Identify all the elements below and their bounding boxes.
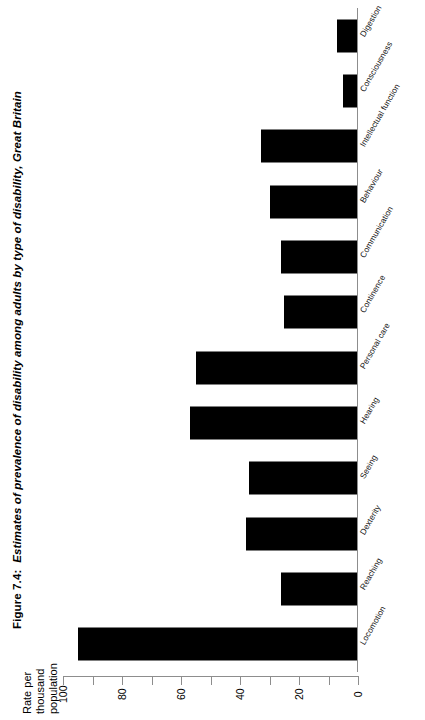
tick-label-20: 20 — [279, 689, 319, 700]
tick-label-60: 60 — [161, 689, 201, 700]
figure-caption: Figure 7.4:Estimates of prevalence of di… — [0, 0, 34, 720]
bar-row: Reaching — [63, 561, 358, 616]
bar-dexterity — [246, 517, 358, 550]
bar-hearing — [190, 406, 358, 439]
category-label-communication: Communication — [358, 205, 394, 259]
tick-label-40: 40 — [220, 689, 260, 700]
category-label-locomotion: Locomotion — [358, 605, 387, 646]
bar-row: Seeing — [63, 451, 358, 506]
major-tick — [181, 676, 182, 685]
value-axis-title-line-1: Rate per — [22, 672, 33, 714]
bar-row: Continence — [63, 285, 358, 340]
bar-communication — [281, 240, 358, 273]
bar-continence — [284, 296, 358, 329]
major-tick — [63, 676, 64, 685]
category-axis-line — [357, 8, 358, 672]
bar-intellectual-function — [261, 130, 358, 163]
bar-row: Communication — [63, 229, 358, 284]
bar-consciousness — [343, 74, 358, 107]
major-tick — [122, 676, 123, 685]
tick-label-80: 80 — [102, 689, 142, 700]
major-tick — [358, 676, 359, 685]
bar-reaching — [281, 572, 358, 605]
minor-tick — [329, 676, 330, 685]
bar-row: Personal care — [63, 340, 358, 395]
category-label-hearing: Hearing — [358, 396, 380, 425]
bar-row: Digestion — [63, 8, 358, 63]
bar-row: Consciousness — [63, 63, 358, 118]
major-tick — [299, 676, 300, 685]
bar-chart-plot-area: DigestionConsciousnessIntellectual funct… — [63, 8, 358, 672]
minor-tick — [211, 676, 212, 685]
figure-caption-text: Figure 7.4:Estimates of prevalence of di… — [11, 91, 23, 629]
category-label-seeing: Seeing — [358, 454, 378, 481]
bar-behaviour — [270, 185, 359, 218]
category-label-digestion: Digestion — [358, 4, 382, 38]
category-label-dexterity: Dexterity — [358, 503, 382, 535]
bar-personal-care — [196, 351, 358, 384]
bar-row: Behaviour — [63, 174, 358, 229]
bar-seeing — [249, 462, 358, 495]
value-axis-title: Rate per thousand population — [22, 640, 68, 718]
tick-label-0: 0 — [338, 689, 378, 700]
category-label-continence: Continence — [358, 274, 386, 315]
bar-digestion — [337, 19, 358, 52]
major-tick — [240, 676, 241, 685]
bar-row: Hearing — [63, 395, 358, 450]
bar-row: Dexterity — [63, 506, 358, 561]
figure-title: Estimates of prevalence of disability am… — [11, 91, 23, 563]
category-label-reaching: Reaching — [358, 557, 383, 592]
category-label-behaviour: Behaviour — [358, 167, 384, 204]
tick-label-100: 100 — [43, 689, 83, 700]
bar-row: Intellectual function — [63, 119, 358, 174]
bar-row: Locomotion — [63, 617, 358, 672]
category-label-personal-care: Personal care — [358, 321, 391, 369]
bar-locomotion — [78, 628, 358, 661]
minor-tick — [152, 676, 153, 685]
figure-number: Figure 7.4: — [11, 570, 23, 629]
minor-tick — [93, 676, 94, 685]
minor-tick — [270, 676, 271, 685]
category-label-consciousness: Consciousness — [358, 40, 393, 93]
